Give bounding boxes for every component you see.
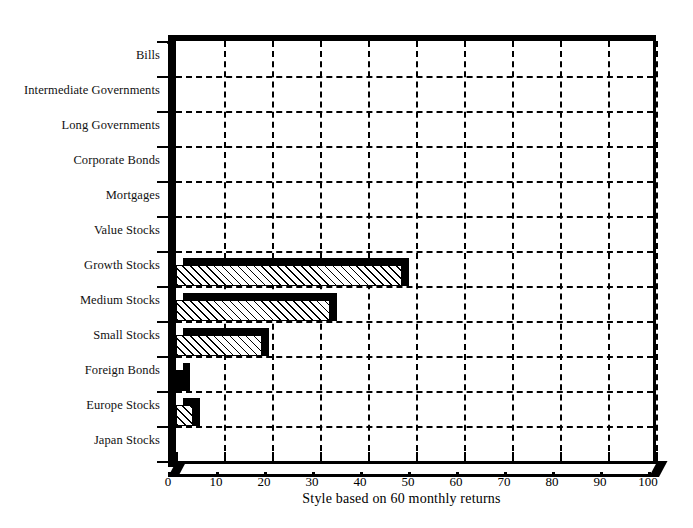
y-axis-tick (157, 216, 170, 218)
x-axis-tick-label: 40 (354, 474, 367, 489)
bar (176, 293, 337, 322)
x-axis-tick-label: 30 (306, 474, 319, 489)
y-axis-tick (157, 111, 170, 113)
y-axis-label: Intermediate Governments (0, 83, 160, 97)
y-axis-label: Europe Stocks (0, 398, 160, 412)
x-axis-tick-label: 20 (258, 474, 271, 489)
y-axis-tick (157, 76, 170, 78)
y-axis-category-labels: BillsIntermediate GovernmentsLong Govern… (0, 37, 160, 465)
x-axis-tick-label: 60 (450, 474, 463, 489)
bar-face (176, 405, 193, 427)
x-axis-tick-label: 50 (402, 474, 415, 489)
y-axis-label: Mortgages (0, 188, 160, 202)
y-axis-tick (157, 356, 170, 358)
x-axis-tick (464, 452, 466, 462)
bars-layer (176, 41, 656, 461)
x-axis-title: Style based on 60 monthly returns (0, 491, 693, 507)
x-axis-tick (656, 452, 658, 462)
x-axis-title-text: Style based on 60 monthly returns (192, 491, 500, 507)
x-axis-tick (224, 452, 226, 462)
x-axis-tick-label: 100 (638, 474, 658, 489)
plot-frame (168, 35, 656, 467)
bar (176, 363, 190, 392)
y-axis-label: Small Stocks (0, 328, 160, 342)
y-axis-label: Corporate Bonds (0, 153, 160, 167)
y-axis-tick (157, 321, 170, 323)
y-axis-label: Value Stocks (0, 223, 160, 237)
gridline-vertical (656, 41, 658, 461)
y-axis-label: Japan Stocks (0, 433, 160, 447)
bar-face (176, 300, 330, 322)
x-axis-tick (320, 452, 322, 462)
x-axis-tick (368, 452, 370, 462)
y-axis-tick (157, 181, 170, 183)
bar (176, 398, 200, 427)
x-axis-tick (272, 452, 274, 462)
x-axis-tick-label: 10 (210, 474, 223, 489)
y-axis-tick (157, 391, 170, 393)
x-axis-tick (512, 452, 514, 462)
x-axis-tick (560, 452, 562, 462)
y-axis-tick (157, 286, 170, 288)
bar (176, 328, 269, 357)
y-axis-label: Growth Stocks (0, 258, 160, 272)
y-axis-label: Bills (0, 48, 160, 62)
x-axis-tick-label: 90 (594, 474, 607, 489)
y-axis-tick (157, 146, 170, 148)
y-axis-tick (157, 251, 170, 253)
bar-face (176, 265, 402, 287)
y-axis-wall (168, 41, 176, 467)
x-axis-tick-label: 0 (165, 474, 172, 489)
x-axis-tick (608, 452, 610, 462)
y-axis-tick (157, 426, 170, 428)
bar (176, 258, 409, 287)
bar-face (176, 335, 262, 357)
y-axis-tick (157, 41, 170, 43)
x-axis-tick-label: 80 (546, 474, 559, 489)
bar-chart: BillsIntermediate GovernmentsLong Govern… (0, 0, 693, 528)
y-axis-label: Medium Stocks (0, 293, 160, 307)
x-axis-tick (176, 452, 178, 462)
bar-face (176, 370, 183, 392)
y-axis-label: Foreign Bonds (0, 363, 160, 377)
bar-shadow (183, 363, 190, 392)
y-axis-label: Long Governments (0, 118, 160, 132)
x-axis-tick-label: 70 (498, 474, 511, 489)
x-axis-tick (416, 452, 418, 462)
